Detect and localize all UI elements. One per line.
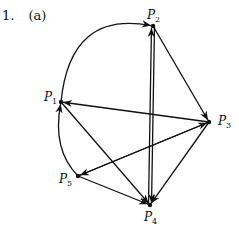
node-label-p4: P4 (144, 210, 157, 226)
node-p1 (59, 100, 63, 104)
edge-p4-to-p2 (149, 28, 152, 205)
edge-p1-to-p2 (61, 23, 151, 102)
node-p2 (151, 24, 155, 28)
node-label-p3: P3 (218, 114, 231, 130)
edges (58, 23, 209, 205)
node-p3 (207, 120, 211, 124)
edge-p3-to-p1 (63, 102, 209, 122)
nodes (59, 24, 211, 207)
node-p5 (76, 174, 80, 178)
node-label-p5: P5 (59, 172, 72, 188)
node-label-p1: P1 (44, 90, 57, 106)
edge-p5-to-p3 (78, 123, 207, 176)
directed-graph (0, 0, 239, 231)
node-label-p2: P2 (147, 8, 160, 24)
node-p4 (148, 203, 152, 207)
edge-p2-to-p3 (153, 26, 208, 120)
edge-p5-to-p1 (58, 104, 78, 176)
